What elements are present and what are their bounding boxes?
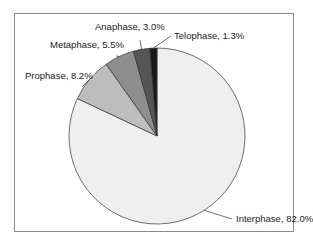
slice-label-anaphase: Anaphase, 3.0%	[95, 21, 165, 32]
slice-label-metaphase: Metaphase, 5.5%	[50, 39, 124, 50]
slice-label-interphase: Interphase, 82.0%	[236, 213, 313, 224]
pie-chart: Interphase, 82.0%Prophase, 8.2%Metaphase…	[0, 0, 313, 245]
slice-label-prophase: Prophase, 8.2%	[25, 70, 93, 81]
slice-label-telophase: Telophase, 1.3%	[174, 30, 245, 41]
leader-line	[153, 36, 171, 48]
leader-line	[204, 210, 232, 219]
pie-slices	[69, 48, 245, 224]
leader-line	[140, 40, 142, 49]
